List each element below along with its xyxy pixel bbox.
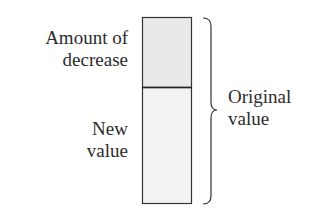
original-value-label: Original value (228, 86, 291, 130)
original-value-label-line-2: value (228, 108, 291, 130)
new-value-label: New value (87, 118, 128, 162)
new-value-segment (143, 88, 192, 204)
amount-of-decrease-label: Amount of decrease (45, 27, 128, 71)
curly-brace-icon (203, 18, 217, 204)
decrease-label-line-1: Amount of (45, 27, 128, 49)
decrease-segment (143, 18, 192, 88)
new-value-label-line-2: value (87, 140, 128, 162)
percent-decrease-diagram: Amount of decrease New value Original va… (0, 0, 334, 222)
decrease-label-line-2: decrease (45, 49, 128, 71)
new-value-label-line-1: New (87, 118, 128, 140)
original-value-label-line-1: Original (228, 86, 291, 108)
